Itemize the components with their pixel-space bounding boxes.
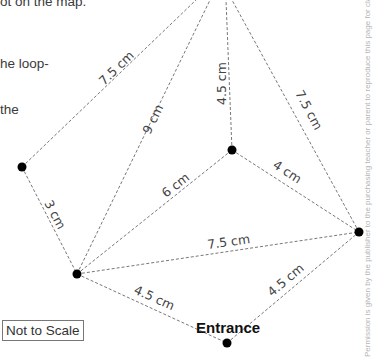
waypoint-lower-left xyxy=(73,270,82,279)
route-map: 7.5 cm 9 cm 4.5 cm 7.5 cm 3 cm 6 cm 4 cm… xyxy=(0,0,380,357)
edge-label: 7.5 cm xyxy=(96,48,137,89)
edge-label: 9 cm xyxy=(139,102,166,136)
waypoint-center xyxy=(228,146,237,155)
entrance-label: Entrance xyxy=(196,319,260,336)
permission-notice: Permission is given by the publisher to … xyxy=(363,0,372,357)
edge-label: 7.5 cm xyxy=(292,87,325,132)
edge-label: 4.5 cm xyxy=(214,62,229,105)
waypoint-entrance xyxy=(223,339,232,348)
waypoint-left xyxy=(18,163,27,172)
edge-label: 7.5 cm xyxy=(206,231,251,252)
edge-label: 4 cm xyxy=(270,157,304,186)
edge-label: 3 cm xyxy=(41,197,69,231)
not-to-scale-box: Not to Scale xyxy=(2,320,84,341)
edge-label: 4.5 cm xyxy=(132,282,177,313)
